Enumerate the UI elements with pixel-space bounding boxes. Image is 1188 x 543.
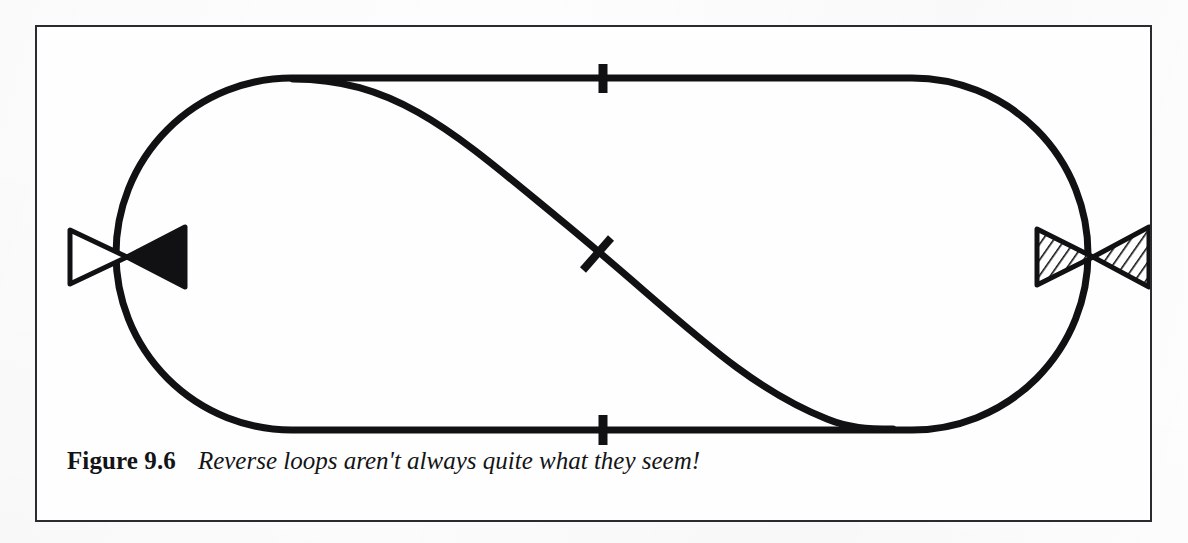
left-bowtie-marker bbox=[70, 227, 185, 287]
right-bowtie-marker bbox=[1037, 227, 1149, 287]
figure-frame: Figure 9.6Reverse loops aren't always qu… bbox=[35, 25, 1152, 522]
figure-caption-text: Reverse loops aren't always quite what t… bbox=[198, 447, 700, 474]
right-bowtie-hatched-triangle-right bbox=[1093, 227, 1149, 287]
page-background: Figure 9.6Reverse loops aren't always qu… bbox=[0, 0, 1188, 543]
track-diagram-svg bbox=[37, 27, 1150, 447]
figure-caption: Figure 9.6Reverse loops aren't always qu… bbox=[67, 447, 1117, 475]
figure-caption-label: Figure 9.6 bbox=[67, 447, 176, 474]
left-bowtie-filled-triangle bbox=[127, 227, 185, 287]
track-diagram bbox=[37, 27, 1150, 447]
